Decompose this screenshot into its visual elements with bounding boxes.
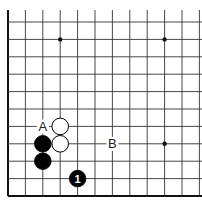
white-stone — [52, 118, 69, 135]
go-board-svg: AB 1 — [0, 0, 202, 203]
black-stone — [35, 136, 52, 153]
grid-lines — [8, 10, 202, 196]
star-point-icon — [162, 142, 166, 146]
point-marker-a: A — [38, 119, 47, 134]
star-point-icon — [162, 37, 166, 41]
black-stone — [35, 153, 52, 170]
white-stone — [52, 136, 69, 153]
point-marker-b: B — [108, 136, 117, 151]
go-board-diagram: AB 1 — [0, 0, 202, 203]
star-point-icon — [58, 37, 62, 41]
move-number-label: 1 — [75, 173, 81, 185]
